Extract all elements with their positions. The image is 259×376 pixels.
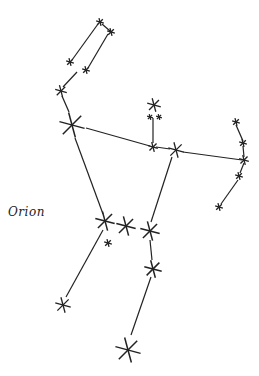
star-icon-arm-star (55, 85, 67, 97)
star-icon-betelgeuse (59, 112, 84, 137)
star-icon-meissa-head (147, 98, 161, 112)
orion-constellation-diagram (0, 0, 259, 376)
star-icon-sword-star (104, 239, 112, 247)
constellation-label: Orion (8, 205, 45, 219)
connector-line (75, 138, 103, 214)
connector-line (102, 24, 110, 31)
star-icon-shield-1 (232, 118, 240, 126)
star-icon-head-pair-right (156, 114, 162, 120)
connector-line (72, 24, 98, 60)
connector-line (86, 128, 150, 146)
star-icon-shield-4 (235, 172, 243, 180)
star-icon-head-pair-left (147, 114, 153, 120)
connector-line (151, 157, 172, 222)
connector-line (131, 277, 151, 335)
connector-line (150, 240, 152, 260)
star-icon-bellatrix (168, 142, 183, 157)
constellation-stars (55, 18, 249, 362)
star-icon-saiph (55, 297, 70, 312)
connector-line (88, 34, 108, 68)
star-icon-alnilam (116, 216, 135, 235)
connector-line (63, 72, 77, 87)
connector-line (221, 180, 238, 204)
connector-line (183, 152, 242, 160)
star-icon-knee-star (144, 260, 161, 277)
star-icon-mintaka (140, 221, 159, 240)
star-icon-shield-5 (215, 203, 223, 211)
connector-line (240, 163, 244, 173)
star-icon-club-arm-left-end (66, 58, 74, 66)
connector-line (236, 125, 243, 141)
star-icon-alnitak (95, 211, 114, 230)
connector-line (156, 147, 170, 149)
connector-line (66, 230, 103, 297)
star-icon-rigel (115, 337, 140, 362)
connector-line (62, 96, 69, 112)
star-icon-club-arm-right-end (82, 66, 90, 74)
